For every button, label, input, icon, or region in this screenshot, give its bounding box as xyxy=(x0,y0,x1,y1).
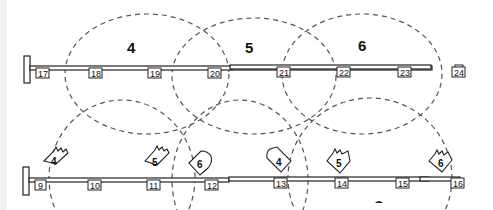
coverage-circle-zone-5 xyxy=(172,18,336,134)
coverage-circle-zone-6 xyxy=(282,14,442,134)
tag-6-rounded: 6 xyxy=(189,151,212,175)
svg-text:13: 13 xyxy=(276,179,286,189)
svg-text:16: 16 xyxy=(453,179,463,189)
svg-text:11: 11 xyxy=(149,181,158,191)
svg-text:17: 17 xyxy=(38,69,48,79)
svg-text:9: 9 xyxy=(38,181,43,191)
svg-text:6: 6 xyxy=(438,158,444,169)
svg-text:24: 24 xyxy=(454,68,464,78)
partial-marker xyxy=(375,201,383,203)
node-14: 14 xyxy=(335,178,348,189)
node-21: 21 xyxy=(277,67,290,78)
tag-6-jagged: 6 xyxy=(429,150,452,172)
zone-label-5: 5 xyxy=(245,39,253,56)
svg-text:12: 12 xyxy=(207,181,217,191)
svg-text:5: 5 xyxy=(152,157,158,168)
svg-text:20: 20 xyxy=(210,69,220,79)
bottom-bus-end-cap xyxy=(23,167,29,195)
node-17: 17 xyxy=(36,68,49,79)
bottom-tags: 4 5 6 4 5 6 xyxy=(44,146,452,175)
node-9: 9 xyxy=(35,180,46,191)
node-11: 11 xyxy=(147,180,160,191)
node-10: 10 xyxy=(88,180,101,191)
svg-text:4: 4 xyxy=(51,156,57,167)
node-15: 15 xyxy=(396,178,409,189)
node-24: 24 xyxy=(452,67,465,78)
node-23: 23 xyxy=(398,67,411,78)
top-bus-end-cap xyxy=(24,56,30,83)
node-19: 19 xyxy=(148,68,161,79)
svg-text:14: 14 xyxy=(337,179,347,189)
node-12: 12 xyxy=(205,180,218,191)
node-13: 13 xyxy=(274,178,287,189)
tag-5-jagged: 5 xyxy=(145,146,169,168)
tag-4-rounded: 4 xyxy=(267,147,291,172)
coverage-circle-bottom-3 xyxy=(288,98,452,210)
svg-text:22: 22 xyxy=(339,68,349,78)
svg-text:21: 21 xyxy=(279,68,289,78)
svg-text:23: 23 xyxy=(400,68,410,78)
top-bus-rail-left xyxy=(30,66,232,70)
svg-text:15: 15 xyxy=(398,179,408,189)
svg-text:18: 18 xyxy=(91,69,101,79)
coverage-circles-top xyxy=(65,14,442,134)
svg-text:5: 5 xyxy=(336,158,342,169)
node-16: 16 xyxy=(451,178,464,189)
bottom-bus-rail-left xyxy=(29,178,229,182)
node-18: 18 xyxy=(89,68,102,79)
svg-text:6: 6 xyxy=(197,159,203,170)
zone-label-4: 4 xyxy=(127,39,136,56)
svg-text:19: 19 xyxy=(150,69,160,79)
node-22: 22 xyxy=(337,67,350,78)
svg-text:10: 10 xyxy=(90,181,100,191)
zone-label-6: 6 xyxy=(358,37,366,54)
coverage-circle-bottom-2 xyxy=(172,100,308,210)
node-20: 20 xyxy=(208,68,221,79)
svg-text:4: 4 xyxy=(276,157,282,168)
bus-diagram: 4 5 6 17 18 19 20 21 22 23 24 9 10 11 12… xyxy=(0,0,493,210)
coverage-circles-bottom xyxy=(49,98,452,210)
tag-4-jagged: 4 xyxy=(44,147,68,167)
tag-5-jagged-2: 5 xyxy=(327,149,350,173)
